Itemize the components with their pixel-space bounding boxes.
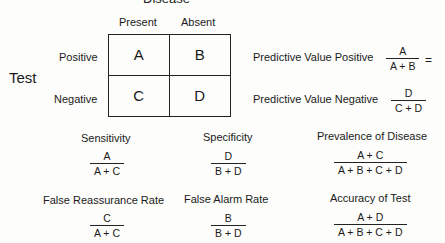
row-header-negative: Negative xyxy=(54,93,97,105)
ppv-label: Predictive Value Positive xyxy=(253,51,373,63)
specificity-formula: D B + D xyxy=(211,150,246,177)
ppv-equals: = xyxy=(425,53,432,67)
column-header-present: Present xyxy=(119,16,157,28)
ppv-formula: A A + B xyxy=(386,45,419,72)
false-reassurance-label: False Reassurance Rate xyxy=(43,194,164,206)
column-header-absent: Absent xyxy=(181,16,215,28)
cell-c: C xyxy=(109,76,170,117)
specificity-label: Specificity xyxy=(203,131,253,143)
npv-label: Predictive Value Negative xyxy=(253,93,378,105)
false-reassurance-formula: C A + C xyxy=(90,212,124,239)
test-axis-label: Test xyxy=(9,69,37,86)
prevalence-label: Prevalence of Disease xyxy=(317,130,427,142)
false-alarm-label: False Alarm Rate xyxy=(184,193,268,205)
accuracy-label: Accuracy of Test xyxy=(330,192,411,204)
false-alarm-formula: B B + D xyxy=(211,212,246,239)
row-header-positive: Positive xyxy=(59,51,98,63)
sensitivity-label: Sensitivity xyxy=(81,132,131,144)
sensitivity-formula: A A + C xyxy=(90,150,124,177)
cell-d: D xyxy=(170,76,231,117)
contingency-table: A B C D xyxy=(108,34,231,117)
accuracy-formula: A + D A + B + C + D xyxy=(334,211,407,238)
disease-title: Disease xyxy=(143,0,190,6)
prevalence-formula: A + C A + B + C + D xyxy=(334,149,407,176)
npv-formula: D C + D xyxy=(391,87,426,114)
cell-a: A xyxy=(109,35,170,76)
cell-b: B xyxy=(170,35,231,76)
